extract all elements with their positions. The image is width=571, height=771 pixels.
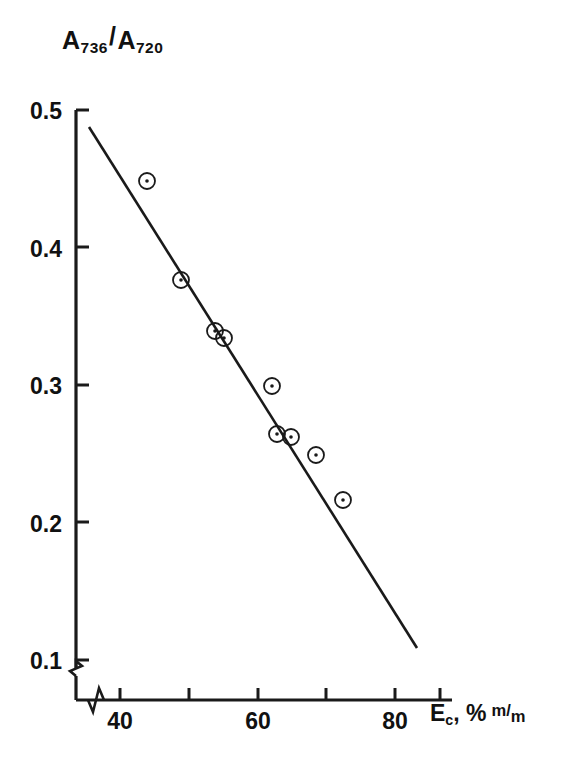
plot-area — [0, 0, 571, 771]
data-point-marker — [335, 492, 351, 508]
trend-line — [89, 127, 417, 648]
data-point-marker — [139, 173, 155, 189]
y-axis-break-mark — [70, 661, 82, 676]
figure-container: A736/A720 0.5 0.4 0.3 0.2 0.1 40 60 80 E… — [0, 0, 571, 771]
data-point-marker — [264, 378, 280, 394]
data-point-marker — [308, 447, 324, 463]
data-points — [139, 173, 351, 508]
